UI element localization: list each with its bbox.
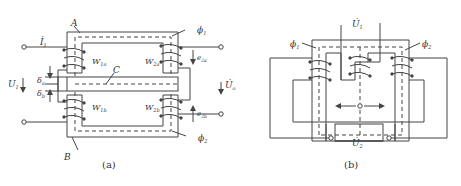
- label-w1b: W1b: [92, 103, 107, 113]
- input-terminal-bottom[interactable]: [22, 120, 26, 124]
- label-flux-bottom: ϕ2: [198, 133, 207, 144]
- label-a: A: [70, 18, 78, 28]
- caption-a: (a): [102, 159, 116, 170]
- output-terminal-top[interactable]: [219, 45, 223, 49]
- label-gap-a: δa: [37, 76, 45, 86]
- secondary-outer-right: [391, 58, 447, 138]
- label-gap-b: δb: [37, 89, 45, 99]
- label-voltage-out: U̇o: [225, 79, 236, 91]
- figure-a: [22, 26, 223, 150]
- u2-terminal-right[interactable]: [387, 136, 391, 140]
- u1-lead-right: [368, 23, 380, 62]
- input-terminal-top[interactable]: [22, 45, 26, 49]
- secondary-outer-left: [270, 58, 329, 138]
- label-w1a: W1a: [92, 57, 106, 67]
- label-w2b: W2b: [145, 103, 160, 113]
- label-c: C: [113, 65, 120, 75]
- label-u2: U̇2: [352, 137, 363, 149]
- secondary-inner-left: [293, 80, 424, 122]
- label-flux-top: ϕ1: [197, 25, 206, 36]
- label-voltage-in: U1: [8, 79, 19, 90]
- figure-b-labels: U̇1 U̇2 ϕ1 ϕ2 (b): [290, 18, 431, 170]
- label-e2b: e2b: [197, 110, 207, 119]
- diagram-canvas: A B C İ1 U1 U̇o ϕ1 ϕ2 δa δb W1a W2a W1b …: [0, 0, 461, 186]
- label-flux-right: ϕ2: [422, 39, 431, 50]
- label-b: B: [63, 152, 71, 162]
- label-flux-left: ϕ1: [290, 39, 299, 50]
- output-link: [178, 68, 190, 100]
- label-current-in: İ1: [39, 36, 47, 48]
- label-u1: U̇1: [352, 18, 363, 30]
- label-w2a: W2a: [145, 57, 159, 67]
- figure-a-labels: A B C İ1 U1 U̇o ϕ1 ϕ2 δa δb W1a W2a W1b …: [8, 18, 236, 170]
- output-terminal-bottom[interactable]: [219, 112, 223, 116]
- figure-b: [270, 23, 447, 141]
- displacement-indicator: [338, 104, 382, 108]
- caption-b: (b): [344, 159, 358, 170]
- u2-terminal-left[interactable]: [329, 136, 333, 140]
- label-e2a: e2a: [197, 54, 207, 63]
